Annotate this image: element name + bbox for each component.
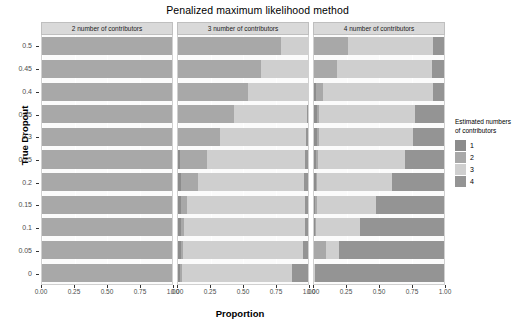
bar-segment-4 (433, 37, 444, 55)
y-tick-mark (36, 46, 39, 47)
bar-row (314, 196, 444, 214)
gridline-vertical (444, 35, 445, 284)
bar-row (178, 37, 308, 55)
y-tick-mark (36, 251, 39, 252)
bar-row (178, 83, 308, 101)
bar-segment-4 (303, 241, 308, 259)
bar-segment-3 (318, 150, 405, 168)
bar-segment-2 (42, 241, 172, 259)
x-tick-label: 0.50 (370, 288, 388, 295)
facet-plot-area (41, 35, 173, 285)
bar-row (42, 128, 172, 146)
bar-row (314, 150, 444, 168)
bar-segment-4 (292, 264, 308, 282)
bar-row (178, 150, 308, 168)
bar-segment-3 (198, 173, 304, 191)
legend-item-3[interactable]: 3 (455, 163, 513, 175)
bar-row (314, 218, 444, 236)
facet-panels: 2 number of contributors3 number of cont… (41, 22, 445, 285)
x-tick-label: 0.00 (304, 288, 322, 295)
bar-row (314, 128, 444, 146)
bar-segment-4 (413, 128, 444, 146)
bar-row (314, 241, 444, 259)
facet-panel-2: 3 number of contributors (177, 22, 309, 285)
bar-segment-2 (178, 60, 261, 78)
x-tick-label: 0.25 (337, 288, 355, 295)
bar-row (178, 196, 308, 214)
y-tick-label: 0.1 (0, 224, 32, 231)
bar-segment-4 (405, 150, 444, 168)
bar-row (42, 264, 172, 282)
legend-items: 1234 (455, 139, 513, 187)
bar-segment-3 (248, 83, 308, 101)
y-tick-label: 0 (0, 270, 32, 277)
legend-item-label: 2 (470, 154, 474, 161)
bar-segment-4 (415, 105, 444, 123)
x-axis-title: Proportion (30, 308, 450, 319)
bar-segment-3 (323, 83, 433, 101)
chart-figure: Penalized maximum likelihood method True… (0, 0, 515, 326)
bar-row (314, 264, 444, 282)
bar-row (178, 218, 308, 236)
bar-row (42, 218, 172, 236)
legend-item-label: 1 (470, 142, 474, 149)
bar-row (42, 241, 172, 259)
bar-segment-3 (319, 128, 413, 146)
facet-plot-area (313, 35, 445, 285)
y-tick-label: 0.2 (0, 179, 32, 186)
bar-segment-2 (178, 128, 220, 146)
bar-row (314, 83, 444, 101)
bar-segment-3 (207, 150, 305, 168)
bar-segment-2 (42, 150, 172, 168)
bar-row (42, 105, 172, 123)
bar-segment-2 (42, 83, 172, 101)
x-tick-label: 0.50 (98, 288, 116, 295)
y-tick-label: 0.25 (0, 156, 32, 163)
bar-segment-2 (181, 173, 199, 191)
bar-segment-3 (317, 173, 392, 191)
legend-title: Estimated numbers of contributors (455, 118, 513, 135)
legend-item-label: 3 (470, 166, 474, 173)
bar-row (42, 173, 172, 191)
y-tick-mark (36, 183, 39, 184)
bar-row (42, 37, 172, 55)
x-tick-label: 0.00 (168, 288, 186, 295)
facet-strip-label: 3 number of contributors (177, 22, 309, 35)
legend-item-4[interactable]: 4 (455, 175, 513, 187)
x-tick-label: 1.00 (436, 288, 454, 295)
x-tick-label: 0.25 (201, 288, 219, 295)
bar-segment-2 (314, 241, 326, 259)
page-title: Penalized maximum likelihood method (0, 4, 515, 16)
bar-row (42, 150, 172, 168)
y-tick-label: 0.45 (0, 65, 32, 72)
bar-row (42, 60, 172, 78)
bar-segment-3 (183, 241, 303, 259)
bar-segment-3 (281, 37, 308, 55)
legend-swatch-icon (455, 176, 466, 187)
bar-segment-4 (305, 218, 308, 236)
legend-swatch-icon (455, 152, 466, 163)
facet-plot-area (177, 35, 309, 285)
bar-segment-4 (339, 241, 444, 259)
legend-item-1[interactable]: 1 (455, 139, 513, 151)
bar-segment-3 (319, 105, 416, 123)
y-tick-mark (36, 160, 39, 161)
y-tick-mark (36, 69, 39, 70)
y-tick-label: 0.15 (0, 201, 32, 208)
bar-row (178, 173, 308, 191)
gridline-vertical (308, 35, 309, 284)
bar-segment-4 (304, 173, 308, 191)
bar-segment-2 (42, 105, 172, 123)
bar-segment-4 (306, 128, 308, 146)
y-tick-label: 0.4 (0, 88, 32, 95)
y-tick-mark (36, 92, 39, 93)
legend-item-2[interactable]: 2 (455, 151, 513, 163)
bar-row (178, 264, 308, 282)
legend-swatch-icon (455, 164, 466, 175)
x-tick-label: 0.75 (131, 288, 149, 295)
bar-segment-4 (376, 196, 444, 214)
bar-segment-3 (317, 196, 376, 214)
y-tick-mark (36, 228, 39, 229)
bar-segment-3 (182, 264, 292, 282)
bar-segment-4 (360, 218, 444, 236)
